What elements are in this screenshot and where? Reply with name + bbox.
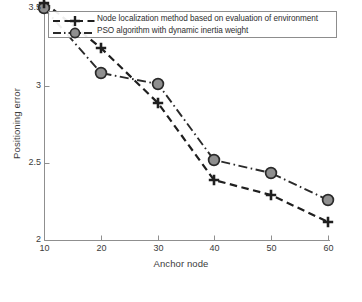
xtick-label-60: 60 [316,244,341,253]
chart-legend: Node localization method based on evalua… [48,11,337,38]
xtick-label-50: 50 [259,244,284,253]
xtick-label-30: 30 [146,244,171,253]
legend-swatch-plus-dashed [51,13,97,25]
legend-swatch-circle-dashdot [51,25,97,37]
ytick-label-2: 2 [14,235,41,244]
x-axis-ticks [45,236,329,241]
legend-entry-node-localization: Node localization method based on evalua… [51,13,336,25]
legend-label-node-localization: Node localization method based on evalua… [97,13,318,25]
y-axis-ticks [45,9,50,241]
x-axis-label: Anchor node [0,258,362,269]
xtick-label-10: 10 [32,244,57,253]
plot-canvas [0,0,362,302]
xtick-label-20: 20 [89,244,114,253]
legend-label-pso: PSO algorithm with dynamic inertia weigh… [97,25,248,37]
xtick-label-40: 40 [202,244,227,253]
y-axis-label: Positioning error [11,64,22,184]
legend-entry-pso: PSO algorithm with dynamic inertia weigh… [51,25,336,37]
chart-figure: 3.5 3 2.5 2 10 20 30 40 50 60 Anchor nod… [0,0,362,302]
ytick-label-3-5: 3.5 [14,3,41,12]
